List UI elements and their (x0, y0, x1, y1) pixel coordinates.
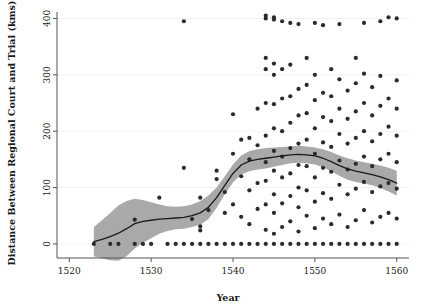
data-point (313, 73, 317, 77)
y-tick-label: 0 (42, 241, 52, 247)
data-point (272, 192, 276, 196)
data-point (280, 67, 284, 71)
data-point (362, 242, 366, 246)
data-point (239, 242, 243, 246)
data-point (370, 220, 374, 224)
data-point (329, 197, 333, 201)
data-point (321, 91, 325, 95)
data-point (386, 181, 390, 185)
data-point (272, 61, 276, 65)
data-point (378, 132, 382, 136)
data-point (395, 134, 399, 138)
data-point (264, 160, 268, 164)
data-point (280, 242, 284, 246)
data-point (305, 242, 309, 246)
data-point (378, 104, 382, 108)
data-point (296, 242, 300, 246)
data-point (215, 177, 219, 181)
data-point (386, 242, 390, 246)
data-point (395, 216, 399, 220)
data-point (321, 242, 325, 246)
data-point (288, 121, 292, 125)
data-point (272, 126, 276, 130)
data-point (296, 163, 300, 167)
data-point (395, 242, 399, 246)
data-point (215, 242, 219, 246)
data-point (337, 77, 341, 81)
data-point (272, 149, 276, 153)
data-point (255, 242, 259, 246)
data-point (362, 21, 366, 25)
y-tick-label: 400 (42, 10, 52, 27)
data-point (386, 152, 390, 156)
data-point (247, 188, 251, 192)
data-point (362, 72, 366, 76)
y-axis-ticks: 0100200300400 (42, 10, 57, 247)
data-point (354, 187, 358, 191)
data-point (296, 87, 300, 91)
data-point (264, 101, 268, 105)
data-point (305, 56, 309, 60)
data-point (354, 218, 358, 222)
data-point (329, 145, 333, 149)
data-point (313, 21, 317, 25)
data-point (280, 129, 284, 133)
data-point (190, 217, 194, 221)
data-point (305, 164, 309, 168)
data-point (239, 215, 243, 219)
scatter-plot-figure: 0100200300400 15201530154015501560 Year … (0, 0, 422, 306)
data-point (92, 242, 96, 246)
data-point (313, 226, 317, 230)
data-point (346, 89, 350, 93)
data-point (354, 109, 358, 113)
data-point (329, 119, 333, 123)
data-point (272, 169, 276, 173)
data-point (378, 19, 382, 23)
x-tick-label: 1530 (140, 266, 163, 276)
data-point (395, 107, 399, 111)
y-tick-label: 100 (42, 179, 52, 196)
data-point (354, 81, 358, 85)
data-point (386, 15, 390, 19)
data-point (165, 242, 169, 246)
x-tick-label: 1550 (303, 266, 326, 276)
data-point (305, 83, 309, 87)
data-point (370, 242, 374, 246)
data-point (198, 196, 202, 200)
data-point (370, 85, 374, 89)
data-point (296, 229, 300, 233)
x-tick-label: 1540 (222, 266, 245, 276)
data-point (395, 78, 399, 82)
y-tick-label: 300 (42, 66, 52, 83)
data-point (329, 222, 333, 226)
data-point (198, 228, 202, 232)
data-point (141, 242, 145, 246)
data-point (247, 136, 251, 140)
x-axis-title: Year (215, 292, 240, 303)
data-point (264, 67, 268, 71)
data-point (272, 211, 276, 215)
data-point (370, 113, 374, 117)
data-point (174, 242, 178, 246)
data-point (264, 242, 268, 246)
data-point (321, 23, 325, 27)
data-point (370, 139, 374, 143)
data-point (272, 232, 276, 236)
data-point (395, 160, 399, 164)
data-point (231, 242, 235, 246)
data-point (272, 15, 276, 19)
data-point (288, 146, 292, 150)
data-point (247, 242, 251, 246)
data-point (337, 158, 341, 162)
data-point (247, 222, 251, 226)
data-point (362, 101, 366, 105)
data-point (321, 191, 325, 195)
data-point (305, 188, 309, 192)
data-point (264, 202, 268, 206)
x-tick-label: 1520 (58, 266, 81, 276)
data-point (280, 225, 284, 229)
data-point (378, 157, 382, 161)
data-point (272, 102, 276, 106)
data-point (346, 225, 350, 229)
data-point (296, 113, 300, 117)
